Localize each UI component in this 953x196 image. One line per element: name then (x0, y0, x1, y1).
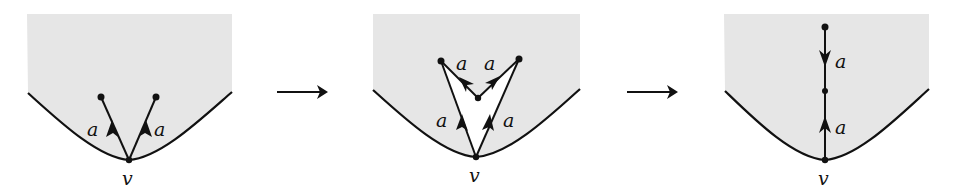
edge-label-right: a (154, 118, 165, 140)
edge-label-lower: a (835, 116, 846, 138)
edge-label-upper-left: a (456, 52, 467, 74)
vertex-v (822, 157, 828, 163)
vertex-end-left (98, 94, 105, 101)
edge-label-left: a (87, 118, 98, 140)
vertex-top-left (438, 58, 445, 65)
edge-label-upper-right: a (484, 52, 495, 74)
vertex-top (822, 24, 829, 31)
panel-3: a a v (724, 14, 929, 189)
vertex-top-right (516, 56, 523, 63)
vertex-v (473, 154, 479, 160)
edge-label-lower-left: a (436, 109, 447, 131)
edge-label-lower-right: a (503, 109, 514, 131)
folding-diagram: a a v a a a a v (0, 0, 953, 196)
vertex-end-right (153, 94, 160, 101)
panel-2: a a a a v (373, 14, 580, 186)
vertex-label-v: v (818, 167, 829, 189)
panel-1: a a v (27, 14, 232, 189)
shaded-region (724, 14, 929, 160)
vertex-v (126, 157, 132, 163)
vertex-label-v: v (122, 167, 133, 189)
transition-arrow-2 (627, 85, 678, 99)
edge-label-upper: a (835, 50, 846, 72)
vertex-label-v: v (469, 164, 480, 186)
shaded-region (27, 14, 232, 160)
transition-arrow-1 (277, 85, 328, 99)
vertex-middle (822, 88, 828, 94)
vertex-inner (475, 95, 481, 101)
